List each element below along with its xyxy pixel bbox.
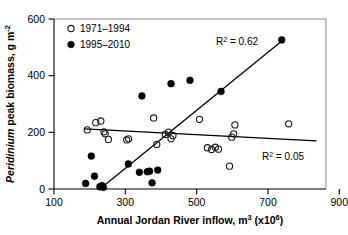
y-tick-label-0: 0	[39, 183, 45, 195]
series-1971-1994-points	[84, 115, 292, 169]
fit-line-1971-1994	[84, 129, 316, 141]
x-tick-label-900: 900	[331, 196, 348, 208]
y-tick-label-400: 400	[27, 69, 45, 81]
legend: 1971–1994 1995–2010	[68, 23, 131, 50]
data-point	[105, 136, 111, 142]
data-point	[146, 168, 153, 175]
data-point	[84, 127, 90, 133]
legend-marker-filled-circle	[68, 41, 75, 48]
y-axis-title: Peridinium peak biomass, g m-2	[3, 25, 16, 183]
data-point	[91, 173, 98, 180]
data-point	[218, 88, 225, 95]
x-axis-title: Annual Jordan River inflow, m3 (x106)	[97, 213, 284, 226]
data-point	[278, 37, 285, 44]
x-tick-label-500: 500	[188, 196, 206, 208]
data-point	[82, 180, 89, 187]
data-point	[139, 93, 146, 100]
data-point	[286, 121, 292, 127]
data-point	[151, 115, 157, 121]
data-point	[126, 136, 132, 142]
legend-marker-open-circle	[68, 25, 74, 31]
r2-annotation-open: R2 = 0.05	[262, 151, 304, 163]
series-1995-2010-points	[82, 37, 285, 191]
data-point	[187, 77, 194, 84]
r2-annotation-filled: R2 = 0.62	[216, 36, 258, 48]
data-point	[88, 153, 95, 160]
data-point	[154, 167, 161, 174]
legend-label-1971-1994: 1971–1994	[80, 23, 130, 34]
regression-lines	[84, 39, 316, 188]
scatter-plot: 0 200 400 600 100 300 500 700 900 Annual…	[0, 0, 348, 235]
data-point	[136, 169, 143, 176]
legend-label-1995-2010: 1995–2010	[80, 39, 130, 50]
data-point	[226, 163, 232, 169]
y-tick-label-600: 600	[27, 13, 45, 25]
x-tick-label-300: 300	[117, 196, 135, 208]
x-tick-label-700: 700	[259, 196, 277, 208]
x-tick-label-100: 100	[45, 196, 63, 208]
y-tick-label-200: 200	[27, 126, 45, 138]
data-point	[125, 161, 132, 168]
data-point	[100, 184, 107, 191]
y-ticks	[49, 19, 55, 189]
x-ticks	[54, 189, 339, 195]
data-point	[196, 116, 202, 122]
data-point	[232, 122, 238, 128]
data-point	[168, 80, 175, 87]
data-point	[149, 179, 156, 186]
chart-figure: 0 200 400 600 100 300 500 700 900 Annual…	[0, 0, 348, 235]
